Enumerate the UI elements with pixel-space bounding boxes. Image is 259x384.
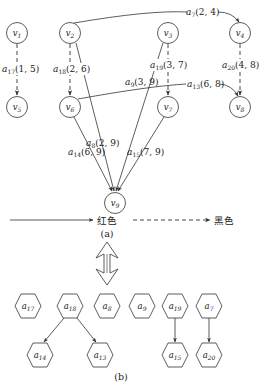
hex-a17: a17 <box>15 294 41 318</box>
edge-a14: a14(6, 9) <box>68 117 112 191</box>
hex-a18: a18 <box>57 294 83 318</box>
edge-label-a14: a14(6, 9) <box>68 147 105 158</box>
edge-label-a7: a7(2, 4) <box>186 7 219 18</box>
hex-a15: a15 <box>162 343 188 367</box>
hex-a7: a7 <box>196 294 222 318</box>
edge-a20: a20(4, 8) <box>222 44 259 95</box>
edge-a18-a13 <box>77 318 96 342</box>
node-v5: v5 <box>7 97 28 118</box>
edge-label-a9: a9(3, 9) <box>125 77 158 88</box>
graph-b: a17 a18 a8 a9 a19 a7 a14 a13 <box>15 294 222 367</box>
double-arrow-icon <box>96 242 118 285</box>
graph-a: a8(2, 9) a9(3, 9) a14(6, 9) a15(7, 9) <box>1 7 259 214</box>
caption-a: (a) <box>100 228 113 239</box>
hex-a8: a8 <box>94 294 120 318</box>
hex-a20: a20 <box>196 343 222 367</box>
hex-a14: a14 <box>27 343 53 367</box>
edge-label-a15: a15(7, 9) <box>127 147 164 158</box>
node-v7: v7 <box>158 97 179 118</box>
hex-a19: a19 <box>162 294 188 318</box>
node-v6: v6 <box>60 97 81 118</box>
legend-dashed-label: 黑色 <box>214 215 234 226</box>
edge-a18-a14 <box>44 318 64 342</box>
edge-a19: a19(3, 7) <box>150 44 187 95</box>
node-v9: v9 <box>105 193 126 214</box>
node-v1: v1 <box>7 23 28 44</box>
node-v4: v4 <box>230 23 251 44</box>
edge-a15: a15(7, 9) <box>118 117 164 191</box>
node-v3: v3 <box>158 23 179 44</box>
edge-a18: a18(2, 6) <box>53 44 90 95</box>
legend: 红色 黑色 <box>10 215 234 226</box>
node-v8: v8 <box>230 97 251 118</box>
hex-a13: a13 <box>87 343 113 367</box>
edge-a7: a7(2, 4) <box>74 7 239 23</box>
hex-a9: a9 <box>129 294 155 318</box>
edge-a17: a17(1, 5) <box>1 44 39 95</box>
legend-solid-label: 红色 <box>97 215 117 226</box>
node-v2: v2 <box>60 23 81 44</box>
caption-b: (b) <box>114 371 128 382</box>
figure-canvas: a8(2, 9) a9(3, 9) a14(6, 9) a15(7, 9) <box>0 0 259 384</box>
edge-label-a13: a13(6, 8) <box>187 79 224 90</box>
